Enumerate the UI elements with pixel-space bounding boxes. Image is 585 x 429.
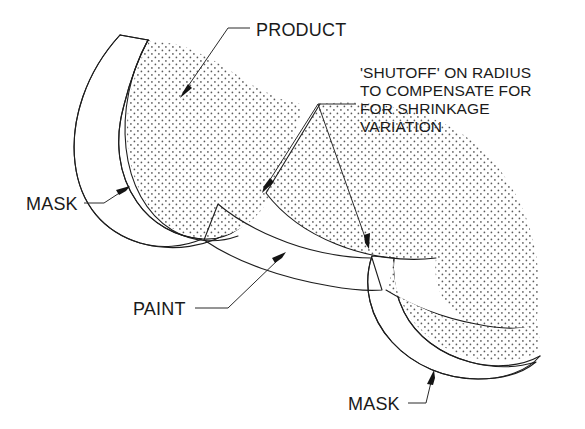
- label-mask-bottom: MASK: [348, 394, 400, 414]
- label-product: PRODUCT: [256, 20, 346, 40]
- technical-diagram: PRODUCT 'SHUTOFF' ON RADIUS TO COMPENSAT…: [0, 0, 585, 429]
- left-product-fill: [127, 41, 302, 238]
- label-paint: PAINT: [133, 299, 186, 319]
- label-mask-left: MASK: [26, 194, 78, 214]
- leader-mask-bottom: [408, 370, 435, 403]
- diagram-canvas: PRODUCT 'SHUTOFF' ON RADIUS TO COMPENSAT…: [0, 0, 585, 429]
- note-shutoff: 'SHUTOFF' ON RADIUS TO COMPENSATE FOR FO…: [360, 64, 532, 135]
- note-line-3: FOR SHRINKAGE: [360, 100, 490, 117]
- note-line-2: TO COMPENSATE FOR: [360, 82, 532, 99]
- note-line-4: VARIATION: [360, 118, 442, 135]
- note-line-1: 'SHUTOFF' ON RADIUS: [360, 64, 531, 81]
- leader-mask-left: [84, 186, 130, 203]
- right-product-surface: [266, 102, 539, 332]
